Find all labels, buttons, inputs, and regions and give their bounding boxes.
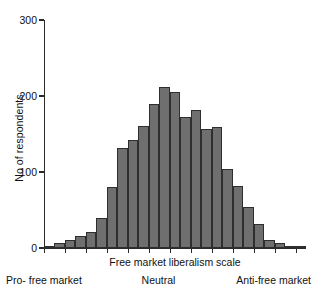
bar — [170, 92, 180, 248]
bar — [149, 104, 159, 248]
x-tick — [107, 249, 108, 253]
bar — [264, 240, 274, 248]
bar — [44, 246, 54, 248]
bar — [233, 186, 243, 248]
bar — [96, 218, 106, 248]
x-tick — [65, 249, 66, 253]
x-tick — [275, 249, 276, 253]
bar — [243, 207, 253, 248]
bar — [65, 240, 75, 248]
x-axis-line — [44, 248, 306, 249]
x-tick — [212, 249, 213, 253]
bar — [75, 236, 85, 248]
bar — [275, 243, 285, 248]
x-tick — [170, 249, 171, 253]
x-tick — [128, 249, 129, 253]
y-tick-label-200: 200 — [19, 91, 37, 102]
bar — [191, 110, 201, 248]
plot-area: 0100200300 — [44, 20, 306, 248]
x-tick — [44, 249, 45, 253]
bar — [180, 117, 190, 248]
x-tick — [86, 249, 87, 253]
x-tick — [233, 249, 234, 253]
bar — [212, 127, 222, 248]
x-tick — [296, 249, 297, 253]
bar — [296, 246, 306, 248]
bar — [159, 87, 169, 248]
bar — [138, 126, 148, 248]
histogram-figure: No of respondents 0100200300 Free market… — [0, 0, 317, 294]
bar — [117, 148, 127, 248]
axis-endpoint-captions: Pro- free market Neutral Anti-free marke… — [6, 274, 311, 286]
bar — [54, 243, 64, 248]
bar — [254, 224, 264, 248]
bar — [128, 140, 138, 248]
y-tick-label-0: 0 — [31, 243, 37, 254]
y-tick-label-300: 300 — [19, 15, 37, 26]
x-tick — [149, 249, 150, 253]
bar-group — [44, 20, 306, 248]
caption-neutral: Neutral — [6, 274, 311, 286]
bar — [86, 232, 96, 248]
bar — [107, 187, 117, 248]
bar — [285, 246, 295, 248]
x-tick — [191, 249, 192, 253]
x-tick — [254, 249, 255, 253]
y-tick-label-100: 100 — [19, 167, 37, 178]
bar — [201, 129, 211, 248]
y-axis-label: No of respondents — [13, 63, 25, 213]
x-axis-label: Free market liberalism scale — [44, 256, 306, 268]
bar — [222, 169, 232, 248]
